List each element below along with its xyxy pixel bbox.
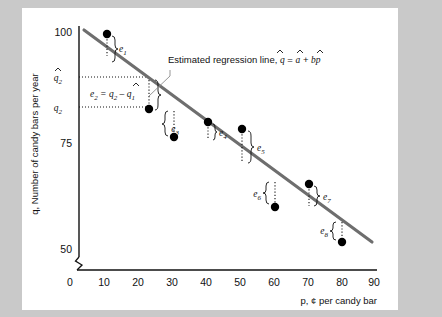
svg-text:q2: q2 — [54, 73, 63, 86]
formula-equals: = — [98, 89, 109, 99]
regression-label-prefix: Estimated regression line, — [168, 54, 280, 65]
formula-qhat-sub: 1 — [131, 94, 135, 102]
data-point-7[interactable] — [305, 180, 313, 188]
x-tick-label-80: 80 — [336, 276, 348, 288]
data-point-6[interactable] — [271, 203, 279, 211]
qhat2-hat-icon — [55, 68, 61, 71]
residual-label-e6: e6 — [253, 189, 261, 202]
residual-label-e1: e1 — [119, 44, 127, 57]
x-tick-label-60: 60 — [268, 276, 280, 288]
data-point-2[interactable] — [145, 105, 153, 113]
data-point-4[interactable] — [204, 118, 212, 126]
x-tick-label-20: 20 — [132, 276, 144, 288]
svg-text:Estimated regression line, q =: Estimated regression line, q = a + bp — [168, 54, 321, 65]
residual-bracket-3 — [162, 111, 168, 136]
regression-label-p: p — [315, 55, 321, 65]
regression-b-hat-icon — [317, 50, 323, 53]
svg-text:q2: q2 — [54, 103, 63, 116]
regression-a-hat-icon — [297, 50, 303, 53]
data-point-5[interactable] — [238, 125, 246, 133]
data-point-8[interactable] — [338, 238, 346, 246]
y-marker-qhat2-sub: 2 — [59, 78, 63, 86]
formula-minus: – — [117, 89, 127, 99]
residual-label-e8: e8 — [320, 226, 328, 239]
y-marker-q2-sub: 2 — [59, 108, 63, 116]
x-tick-label-70: 70 — [302, 276, 314, 288]
x-axis-title: p, ¢ per candy bar — [300, 295, 377, 306]
residual-bracket-1 — [112, 36, 118, 62]
figure-root: 100 75 50 q2 q2 0 10 20 30 — [0, 0, 442, 317]
y-tick-label-50: 50 — [60, 243, 72, 255]
scatter-plot: 100 75 50 q2 q2 0 10 20 30 — [22, 8, 398, 310]
regression-label-eq: = — [285, 54, 296, 65]
x-tick-label-50: 50 — [234, 276, 246, 288]
chart-panel: 100 75 50 q2 q2 0 10 20 30 — [22, 8, 398, 310]
residual-label-e5: e5 — [257, 143, 265, 156]
x-tick-label-30: 30 — [166, 276, 178, 288]
svg-text:e2 = q2 – q1: e2 = q2 – q1 — [90, 89, 135, 102]
x-tick-label-0: 0 — [67, 276, 73, 288]
x-tick-label-40: 40 — [200, 276, 212, 288]
y-marker-qhat2: q2 — [54, 68, 63, 86]
data-point-1[interactable] — [103, 30, 111, 38]
formula-qhat-hat-icon — [133, 83, 139, 86]
y-marker-q2: q2 — [54, 103, 63, 116]
x-tick-label-90: 90 — [368, 276, 380, 288]
x-tick-label-10: 10 — [98, 276, 110, 288]
residual-label-e7: e7 — [323, 192, 331, 205]
residual-bracket-8 — [330, 222, 336, 240]
residual-bracket-6 — [263, 182, 269, 204]
residual-bracket-5 — [248, 131, 254, 163]
residual-formula: e2 = q2 – q1 — [90, 83, 139, 102]
residual-label-e4: e4 — [219, 128, 227, 141]
regression-line-label: Estimated regression line, q = a + bp — [168, 50, 323, 65]
regression-q-hat-icon — [277, 50, 283, 53]
regression-label-plus: + — [300, 54, 311, 65]
y-axis-title: q, Number of candy bars per year — [29, 73, 40, 215]
y-tick-label-75: 75 — [60, 137, 72, 149]
y-tick-label-100: 100 — [54, 26, 72, 38]
y-axis-break-icon — [76, 257, 83, 270]
